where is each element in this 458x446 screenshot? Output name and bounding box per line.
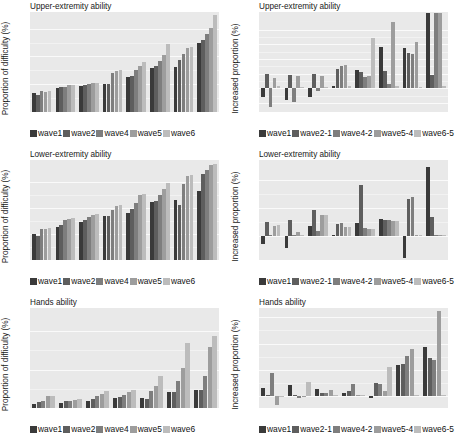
legend-label: wave6-5 <box>422 424 454 434</box>
bar <box>279 396 283 397</box>
y-axis-label: Proportion of difficulty (%) <box>0 308 13 420</box>
bar <box>403 236 407 258</box>
y-axis-label: Proportion of difficulty (%) <box>0 12 13 124</box>
legend-item[interactable]: wave1 <box>259 424 292 434</box>
legend-swatch-icon <box>96 426 103 433</box>
legend-item[interactable]: wave5-4 <box>374 424 415 434</box>
legend-label: wave1 <box>267 424 291 434</box>
legend-item[interactable]: wave1 <box>30 276 63 286</box>
bar-group <box>355 160 375 260</box>
bar-group <box>32 308 55 408</box>
figure-container: Upper-extremity abilityProportion of dif… <box>0 0 458 446</box>
legend-swatch-icon <box>30 130 37 137</box>
legend-label: wave2 <box>71 276 95 286</box>
legend-label: wave6 <box>171 424 195 434</box>
legend-item[interactable]: wave2-1 <box>292 424 333 434</box>
chart-panel-lower-extremity-proportion: Lower-extremity abilityProportion of dif… <box>0 148 229 296</box>
legend-label: wave2-1 <box>300 424 332 434</box>
legend-item[interactable]: wave4 <box>96 424 129 434</box>
legend-swatch-icon <box>414 130 421 137</box>
legend-item[interactable]: wave2 <box>63 128 96 138</box>
legend-item[interactable]: wave1 <box>30 128 63 138</box>
legend-swatch-icon <box>96 130 103 137</box>
legend-swatch-icon <box>333 130 340 137</box>
bar <box>265 74 269 89</box>
bar <box>285 88 289 99</box>
bar <box>437 311 441 396</box>
y-axis-label: Proportion of difficulty (%) <box>0 160 13 272</box>
bar-group <box>194 308 217 408</box>
bar-group <box>288 308 311 408</box>
bar <box>442 86 446 88</box>
bar <box>371 38 375 89</box>
legend-item[interactable]: wave4 <box>96 128 129 138</box>
legend-item[interactable]: wave6 <box>163 276 196 286</box>
y-axis-label-text: Increased proportion (%) <box>231 171 240 261</box>
y-axis-label-text: Increased proportion (%) <box>231 319 240 409</box>
bar-group <box>308 160 328 260</box>
bar <box>261 88 265 96</box>
bar-group <box>32 160 52 260</box>
legend-label: wave4-2 <box>341 276 373 286</box>
legend-item[interactable]: wave5-4 <box>374 276 415 286</box>
bar-group <box>197 160 217 260</box>
legend-item[interactable]: wave2-1 <box>292 276 333 286</box>
legend-item[interactable]: wave2-1 <box>292 128 333 138</box>
legend-item[interactable]: wave2 <box>63 276 96 286</box>
bar <box>360 395 364 396</box>
bar <box>395 86 399 88</box>
bar <box>308 88 312 97</box>
legend-label: wave1 <box>38 276 62 286</box>
bar <box>71 85 75 112</box>
bar-group <box>59 308 82 408</box>
legend-item[interactable]: wave6-5 <box>414 276 455 286</box>
bar-group <box>126 12 146 112</box>
bar-group <box>261 308 284 408</box>
legend-swatch-icon <box>333 426 340 433</box>
bar <box>261 236 265 244</box>
legend-item[interactable]: wave1 <box>259 276 292 286</box>
bar <box>166 44 170 112</box>
bar <box>371 229 375 236</box>
plot-area: 50-5556-6061-6566-7071-7576-8081-8501020 <box>30 308 219 408</box>
bar <box>166 183 170 260</box>
bar-group <box>403 12 423 112</box>
legend-item[interactable]: wave4 <box>96 276 129 286</box>
legend-item[interactable]: wave1 <box>259 128 292 138</box>
legend-label: wave5-4 <box>382 276 414 286</box>
legend-item[interactable]: wave5-4 <box>374 128 415 138</box>
bar-group <box>197 12 217 112</box>
bar <box>419 87 423 88</box>
bar <box>119 70 123 112</box>
legend-item[interactable]: wave5 <box>130 128 163 138</box>
legend-item[interactable]: wave5 <box>130 424 163 434</box>
bar <box>95 214 99 260</box>
bar <box>212 336 216 408</box>
legend-item[interactable]: wave6-5 <box>414 424 455 434</box>
legend-item[interactable]: wave4-2 <box>333 424 374 434</box>
legend-item[interactable]: wave5 <box>130 276 163 286</box>
legend-label: wave4 <box>104 128 128 138</box>
plot-area: 50-5556-6061-6566-7071-7576-8081-8586-90… <box>259 12 448 112</box>
legend-item[interactable]: wave4-2 <box>333 276 374 286</box>
bar <box>414 395 418 396</box>
bar-group <box>332 12 352 112</box>
bar <box>348 227 352 236</box>
legend-item[interactable]: wave6 <box>163 424 196 434</box>
legend-item[interactable]: wave2 <box>63 424 96 434</box>
legend-item[interactable]: wave6 <box>163 128 196 138</box>
legend-item[interactable]: wave4-2 <box>333 128 374 138</box>
chart-legend: wave1wave2-1wave4-2wave5-4wave6-5 <box>259 128 455 138</box>
bar-group <box>174 160 194 260</box>
bar <box>312 74 316 89</box>
legend-item[interactable]: wave1 <box>30 424 63 434</box>
bar <box>50 396 54 408</box>
bar <box>213 15 217 112</box>
legend-swatch-icon <box>259 278 266 285</box>
bar <box>285 236 289 248</box>
bar <box>438 13 442 89</box>
chart-title: Lower-extremity ability <box>30 150 111 159</box>
legend-swatch-icon <box>414 278 421 285</box>
legend-item[interactable]: wave6-5 <box>414 128 455 138</box>
bar-group <box>86 308 109 408</box>
